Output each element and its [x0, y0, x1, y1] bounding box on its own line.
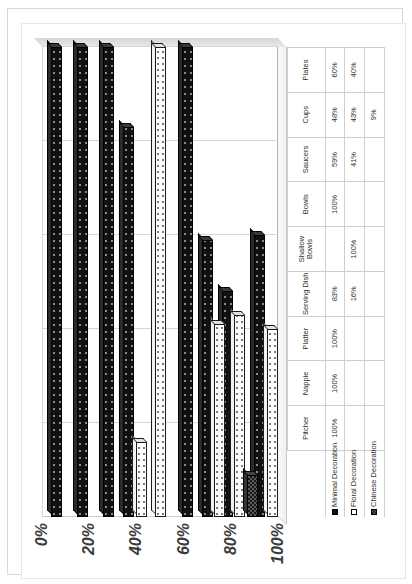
bar-group-nappie [68, 47, 94, 517]
bar-top-face [131, 435, 135, 514]
axis-tick-100pct: 100% [269, 523, 287, 579]
bar-group-saucers [199, 47, 225, 517]
bar-top-face [177, 40, 181, 514]
table-cell-pitcher-floral-decoration [344, 406, 364, 451]
bar-group-cups [225, 47, 251, 517]
bar-front-face [76, 47, 87, 517]
bar-bowls-minimal-decoration [181, 47, 192, 517]
table-cell-platter-chinese-decoration [364, 316, 384, 361]
table-cell-plates-floral-decoration: 40% [344, 48, 364, 93]
table-row: Floral Decoration16%100%41%43%40% [344, 48, 364, 518]
bar-plates-floral-decoration [266, 329, 277, 517]
table-cell-nappie-chinese-decoration [364, 361, 384, 406]
legend-item-label: Floral Decoration [349, 450, 358, 507]
chart-page: 0%20%40%60%80%100% PitcherNappiePlatterS… [0, 0, 412, 584]
table-cell-saucers-chinese-decoration [364, 137, 384, 182]
bar-group-pitcher [42, 47, 68, 517]
minimal-swatch [331, 509, 337, 515]
table-cell-shallow-bowls-chinese-decoration [364, 227, 384, 272]
table-header-row: PitcherNappiePlatterServing DishShallow … [287, 48, 325, 518]
table-cell-platter-floral-decoration [344, 316, 364, 361]
bar-cups-chinese-decoration [246, 475, 257, 517]
bar-nappie-minimal-decoration [76, 47, 87, 517]
bar-group-serving-dish [120, 47, 146, 517]
table-col-header-cups: Cups [287, 92, 325, 137]
bar-top-face [262, 322, 266, 514]
table-cell-cups-minimal-decoration: 48% [325, 92, 345, 137]
bar-top-face [230, 308, 234, 514]
table-corner-cell [287, 451, 325, 518]
table-col-header-plates: Plates [287, 48, 325, 93]
table-cell-bowls-floral-decoration [344, 182, 364, 227]
bar-serving-dish-floral-decoration [135, 442, 146, 517]
bar-group-plates [251, 47, 277, 517]
table-col-header-saucers: Saucers [287, 137, 325, 182]
table-cell-serving-dish-floral-decoration: 16% [344, 271, 364, 316]
plot-wrapper: 0%20%40%60%80%100% PitcherNappiePlatterS… [24, 23, 404, 579]
table-cell-bowls-minimal-decoration: 100% [325, 182, 345, 227]
table-cell-platter-minimal-decoration: 100% [325, 316, 345, 361]
table-cell-saucers-floral-decoration: 41% [344, 137, 364, 182]
axis-tick-0pct: 0% [33, 523, 51, 579]
table-row: Minimal Decoration100%100%100%83%100%59%… [325, 48, 345, 518]
table-col-header-bowls: Bowls [287, 182, 325, 227]
axis-tick-80pct: 80% [221, 523, 239, 579]
bar-pitcher-minimal-decoration [50, 47, 61, 517]
bar-top-face [46, 40, 50, 514]
bar-front-face [266, 329, 277, 517]
table-cell-cups-floral-decoration: 43% [344, 92, 364, 137]
bar-front-face [135, 442, 146, 517]
bar-top-face [242, 468, 246, 514]
bar-saucers-floral-decoration [214, 324, 225, 517]
chinese-swatch [371, 509, 377, 515]
table-col-header-nappie: Nappie [287, 361, 325, 406]
bar-front-face [181, 47, 192, 517]
data-table: PitcherNappiePlatterServing DishShallow … [287, 47, 385, 517]
legend-item-chinese-decoration[interactable]: Chinese Decoration [364, 451, 384, 518]
bar-group-shallow-bowls [146, 47, 172, 517]
bar-group-platter [94, 47, 120, 517]
bar-top-face [99, 40, 103, 514]
chart-outer-frame: 0%20%40%60%80%100% PitcherNappiePlatterS… [7, 8, 403, 575]
legend-item-label: Chinese Decoration [369, 441, 378, 507]
table-row: Chinese Decoration9% [364, 48, 384, 518]
table-cell-serving-dish-minimal-decoration: 83% [325, 271, 345, 316]
table-cell-plates-chinese-decoration [364, 48, 384, 93]
table-col-header-shallow-bowls: Shallow Bowls [287, 227, 325, 272]
axis-tick-40pct: 40% [127, 523, 145, 579]
bar-front-face [50, 47, 61, 517]
bar-front-face [246, 475, 257, 517]
legend-item-label: Minimal Decoration [329, 443, 338, 507]
bar-platter-minimal-decoration [103, 47, 114, 517]
rotated-chart-stage: 0%20%40%60%80%100% PitcherNappiePlatterS… [24, 23, 404, 579]
floral-swatch [351, 509, 357, 515]
bar-group-bowls [173, 47, 199, 517]
bar-top-face [151, 40, 155, 514]
table-cell-serving-dish-chinese-decoration [364, 271, 384, 316]
plot-area [42, 47, 278, 517]
chart-inner-frame: 0%20%40%60%80%100% PitcherNappiePlatterS… [21, 23, 406, 579]
table-col-header-pitcher: Pitcher [287, 406, 325, 451]
table-cell-saucers-minimal-decoration: 59% [325, 137, 345, 182]
table-cell-shallow-bowls-minimal-decoration [325, 227, 345, 272]
plot-floor [278, 39, 287, 525]
axis-tick-60pct: 60% [174, 523, 192, 579]
table-cell-bowls-chinese-decoration [364, 182, 384, 227]
legend-item-minimal-decoration[interactable]: Minimal Decoration [325, 451, 345, 518]
table-cell-nappie-floral-decoration [344, 361, 364, 406]
table-cell-plates-minimal-decoration: 60% [325, 48, 345, 93]
table-col-header-serving-dish: Serving Dish [287, 271, 325, 316]
legend-item-floral-decoration[interactable]: Floral Decoration [344, 451, 364, 518]
bar-front-face [155, 47, 166, 517]
bar-front-face [214, 324, 225, 517]
axis-tick-20pct: 20% [80, 523, 98, 579]
table-cell-cups-chinese-decoration: 9% [364, 92, 384, 137]
bar-shallow-bowls-floral-decoration [155, 47, 166, 517]
data-table-grid: PitcherNappiePlatterServing DishShallow … [287, 47, 385, 517]
table-col-header-platter: Platter [287, 316, 325, 361]
table-cell-nappie-minimal-decoration: 100% [325, 361, 345, 406]
bar-top-face [210, 317, 214, 514]
table-cell-shallow-bowls-floral-decoration: 100% [344, 227, 364, 272]
bar-top-face [72, 40, 76, 514]
bar-front-face [103, 47, 114, 517]
